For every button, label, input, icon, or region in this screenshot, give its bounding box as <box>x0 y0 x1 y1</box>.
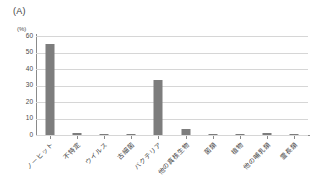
panel-label: (A) <box>13 6 26 16</box>
bar-slot <box>118 36 145 135</box>
x-label-slot: ノーヒット <box>36 139 63 192</box>
bar-slot <box>226 36 253 135</box>
bar <box>154 80 163 135</box>
x-tick-label: 植物 <box>230 141 245 156</box>
x-tick-mark <box>50 136 51 139</box>
y-tick-label: 20 <box>14 99 33 106</box>
x-label-slot: 他の真核生物 <box>172 139 199 192</box>
bar <box>72 133 81 135</box>
x-tick-label: 霊長類 <box>280 141 300 161</box>
x-tick-mark <box>294 136 295 139</box>
x-tick-label: 菌類 <box>203 141 218 156</box>
bar-series <box>36 36 308 135</box>
bar <box>181 129 190 135</box>
x-tick-label: 古細菌 <box>116 141 136 161</box>
bar-slot <box>199 36 226 135</box>
bar-slot <box>63 36 90 135</box>
y-tick-label: 60 <box>14 33 33 40</box>
x-label-slot: ウイルス <box>90 139 117 192</box>
chart-figure: (A) (%) 0102030405060 ノーヒット不特定ウイルス古細菌バクテ… <box>0 0 319 192</box>
y-tick-label: 0 <box>14 132 33 139</box>
bar-slot <box>172 36 199 135</box>
x-tick-mark <box>240 136 241 139</box>
bar-slot <box>281 36 308 135</box>
x-tick-mark <box>213 136 214 139</box>
bar <box>235 134 244 135</box>
x-label-slot: 他の哺乳類 <box>254 139 281 192</box>
plot-area <box>36 36 308 135</box>
bar <box>263 133 272 135</box>
bar <box>290 134 299 135</box>
x-label-slot: 菌類 <box>199 139 226 192</box>
x-label-slot: 不特定 <box>63 139 90 192</box>
x-tick-label: ノーヒット <box>25 141 55 171</box>
bar <box>208 134 217 135</box>
x-tick-mark <box>77 136 78 139</box>
bar <box>127 134 136 135</box>
x-tick-mark <box>186 136 187 139</box>
y-tick-label: 40 <box>14 66 33 73</box>
x-tick-mark <box>131 136 132 139</box>
x-tick-mark <box>104 136 105 139</box>
y-tick-label: 30 <box>14 82 33 89</box>
x-tick-mark <box>267 136 268 139</box>
bar-slot <box>254 36 281 135</box>
x-label-slot: 霊長類 <box>281 139 308 192</box>
y-axis-tick-labels: 0102030405060 <box>14 36 33 135</box>
x-tick-mark <box>158 136 159 139</box>
bar <box>99 134 108 135</box>
y-tick-label: 50 <box>14 49 33 56</box>
bar-slot <box>90 36 117 135</box>
y-axis-unit-label: (%) <box>17 26 26 32</box>
y-tick-label: 10 <box>14 115 33 122</box>
x-axis-tick-labels: ノーヒット不特定ウイルス古細菌バクテリア他の真核生物菌類植物他の哺乳類霊長類 <box>36 139 308 192</box>
bar-slot <box>145 36 172 135</box>
bar-slot <box>36 36 63 135</box>
bar <box>45 44 54 135</box>
x-tick-label: 不特定 <box>62 141 82 161</box>
